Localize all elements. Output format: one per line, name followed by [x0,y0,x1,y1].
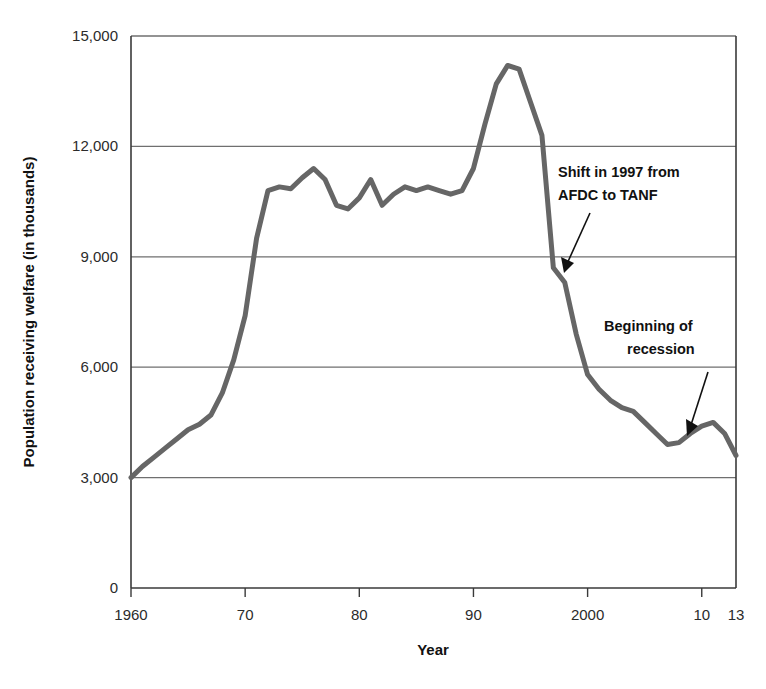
y-tick-label-6000: 6,000 [80,358,118,375]
y-tick-label-12000: 12,000 [72,137,118,154]
annotation-afdc-tanf-line-1: Shift in 1997 from [558,164,680,180]
welfare-population-line-chart: 03,0006,0009,00012,00015,000 19607080902… [0,0,766,689]
x-tick-label-2010: 10 [693,606,710,623]
annotation-recession-line-2: recession [627,341,695,357]
annotation-recession-line-1: Beginning of [604,318,693,334]
x-tick-label-1980: 80 [351,606,368,623]
y-tick-label-15000: 15,000 [72,27,118,44]
x-tick-label-1960: 1960 [114,606,147,623]
chart-figure: 03,0006,0009,00012,00015,000 19607080902… [0,0,766,689]
x-tick-label-2013: 13 [728,606,745,623]
x-axis-title: Year [417,641,449,658]
y-tick-label-3000: 3,000 [80,469,118,486]
x-tick-label-2000: 2000 [571,606,604,623]
y-tick-label-9000: 9,000 [80,248,118,265]
x-tick-label-1970: 70 [237,606,254,623]
y-axis-title: Population receiving welfare (in thousan… [20,157,37,468]
x-tick-label-1990: 90 [465,606,482,623]
y-tick-label-0: 0 [110,579,118,596]
annotation-afdc-tanf-line-2: AFDC to TANF [558,187,658,203]
